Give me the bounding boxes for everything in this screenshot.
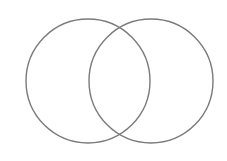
right-circle [89, 19, 213, 143]
left-circle [26, 19, 150, 143]
venn-diagram [0, 0, 227, 161]
venn-svg [0, 0, 227, 161]
